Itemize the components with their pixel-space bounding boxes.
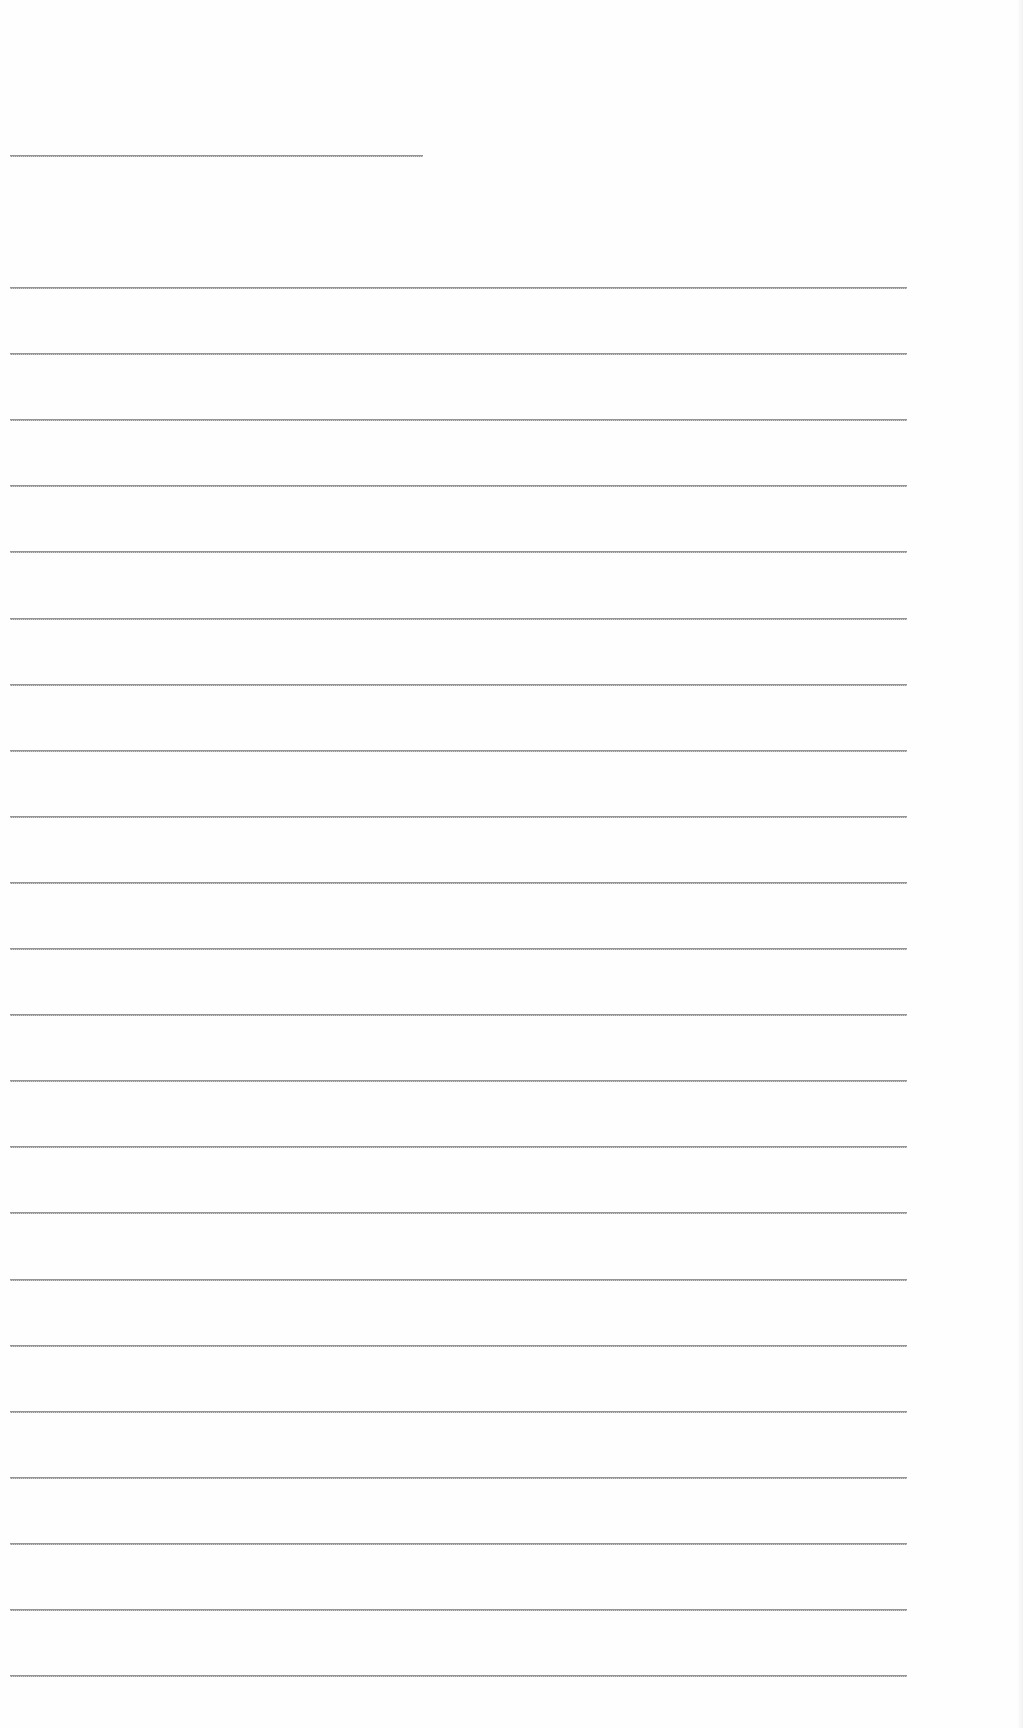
ruled-line	[10, 948, 907, 950]
ruled-line	[10, 1411, 907, 1413]
ruled-line	[10, 551, 907, 553]
ruled-line	[10, 1080, 907, 1082]
ruled-line	[10, 287, 907, 289]
ruled-line	[10, 1279, 907, 1281]
page-edge-shadow	[1017, 0, 1023, 1728]
ruled-line	[10, 1609, 907, 1611]
ruled-line	[10, 1345, 907, 1347]
ruled-line	[10, 485, 907, 487]
ruled-line	[10, 750, 907, 752]
ruled-line	[10, 1477, 907, 1479]
ruled-line	[10, 1543, 907, 1545]
lined-page	[0, 0, 1023, 1728]
ruled-line	[10, 1212, 907, 1214]
ruled-line	[10, 684, 907, 686]
ruled-line	[10, 618, 907, 620]
ruled-line	[10, 419, 907, 421]
ruled-line	[10, 1675, 907, 1677]
ruled-line	[10, 882, 907, 884]
ruled-line	[10, 1014, 907, 1016]
ruled-line	[10, 1146, 907, 1148]
header-line	[10, 155, 423, 157]
ruled-line	[10, 816, 907, 818]
ruled-line	[10, 353, 907, 355]
